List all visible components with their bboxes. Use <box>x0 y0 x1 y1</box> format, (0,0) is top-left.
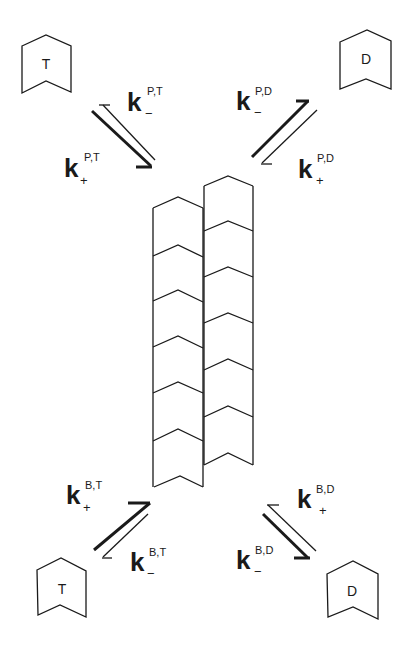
rate-label-bottom-right-plus: k B,D + <box>297 483 334 518</box>
svg-text:B,D: B,D <box>316 483 334 495</box>
svg-text:−: − <box>145 106 153 121</box>
svg-text:k: k <box>127 87 142 117</box>
svg-text:P,D: P,D <box>255 85 272 97</box>
rate-label-top-right-plus: k P,D + <box>298 152 334 188</box>
polymer-right-column <box>204 176 253 465</box>
svg-text:P,T: P,T <box>147 85 163 97</box>
rate-label-top-right-minus: k P,D − <box>236 85 272 120</box>
rate-label-top-left-plus: k P,T + <box>64 151 100 188</box>
svg-text:k: k <box>64 153 79 183</box>
svg-text:−: − <box>254 105 262 120</box>
svg-text:P,D: P,D <box>317 152 334 164</box>
svg-text:k: k <box>236 86 251 116</box>
svg-text:k: k <box>297 484 312 514</box>
svg-text:+: + <box>316 173 324 188</box>
svg-text:+: + <box>83 500 91 515</box>
subunit-label-bottom-right: D <box>347 583 357 599</box>
svg-text:+: + <box>319 503 327 518</box>
subunit-label-top-left: T <box>42 56 51 72</box>
rate-label-top-left-minus: k P,T − <box>127 85 163 121</box>
rate-label-bottom-right-minus: k B,D − <box>236 544 273 579</box>
svg-text:+: + <box>80 173 88 188</box>
subunit-label-top-right: D <box>361 51 371 67</box>
svg-text:k: k <box>298 154 313 184</box>
svg-text:−: − <box>147 566 155 581</box>
rate-label-bottom-left-minus: k B,T − <box>130 546 166 581</box>
svg-text:B,T: B,T <box>85 479 102 491</box>
svg-text:k: k <box>236 545 251 575</box>
svg-text:B,D: B,D <box>255 544 273 556</box>
polymer-left-column <box>153 197 203 487</box>
svg-text:k: k <box>66 480 81 510</box>
rate-label-bottom-left-plus: k B,T + <box>66 479 102 515</box>
svg-text:B,T: B,T <box>149 546 166 558</box>
svg-text:−: − <box>254 564 262 579</box>
subunit-label-bottom-left: T <box>58 581 67 597</box>
svg-text:k: k <box>130 547 145 577</box>
svg-text:P,T: P,T <box>84 151 100 163</box>
diagram-canvas: T D T D k P,T − k P,T + k P,D − k P,D + … <box>0 0 413 656</box>
